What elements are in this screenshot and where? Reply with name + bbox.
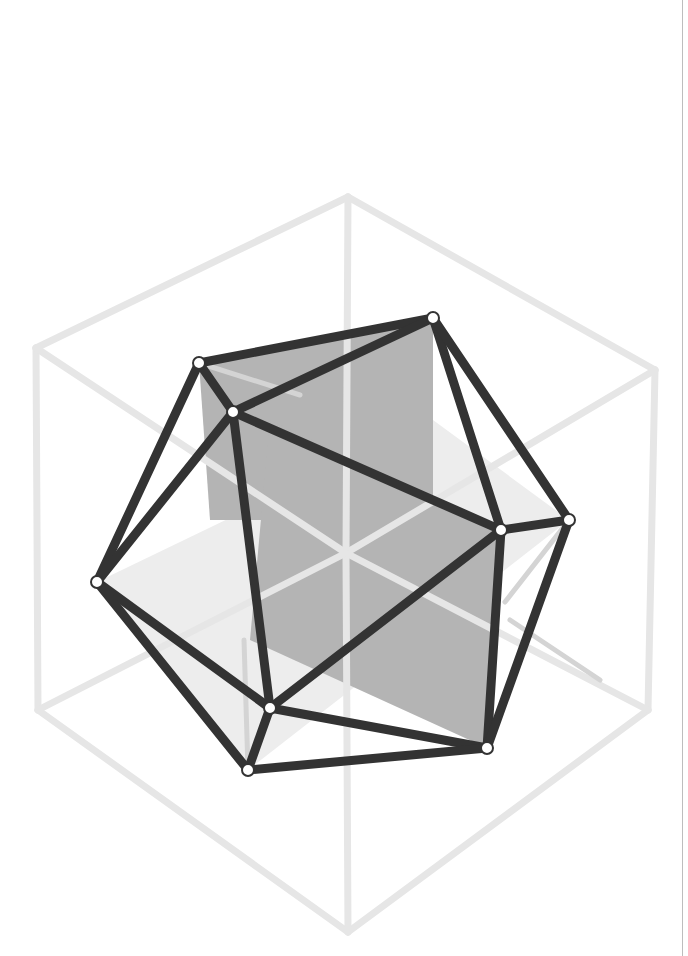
vertex-D (495, 524, 507, 536)
vertex-E (563, 514, 575, 526)
icosahedron-diagram (0, 0, 688, 956)
cube-edge (36, 197, 348, 348)
cube-wireframe (36, 197, 655, 932)
cube-edge (38, 710, 348, 932)
vertex-G (264, 702, 276, 714)
cube-edge (648, 370, 655, 710)
vertex-H (242, 764, 254, 776)
edge-HI (248, 748, 487, 770)
cube-edge (346, 197, 348, 553)
cube-edge (36, 348, 38, 710)
vertex-F (91, 576, 103, 588)
vertex-A (193, 357, 205, 369)
cube-edge (348, 710, 648, 932)
vertex-C (427, 312, 439, 324)
vertex-I (481, 742, 493, 754)
cube-edge (346, 553, 348, 932)
vertex-B (227, 406, 239, 418)
